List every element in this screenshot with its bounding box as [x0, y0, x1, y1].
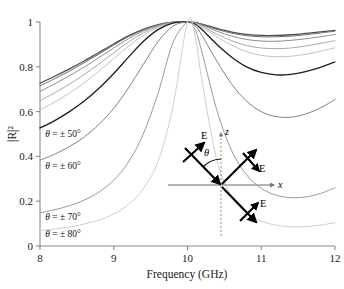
- x-axis-title: Frequency (GHz): [147, 268, 228, 281]
- polarization-geometry-inset: z x E θ E E: [168, 126, 283, 236]
- label-theta-50: θ = ± 50°: [45, 129, 81, 139]
- reflected-ray-arrow: [222, 150, 256, 184]
- y-tick-label: 1: [28, 16, 34, 28]
- y-axis-title: |R|²: [6, 126, 19, 142]
- y-tick-label: 0.6: [19, 106, 33, 118]
- theta-angle-label: θ: [204, 147, 209, 158]
- y-tick-label: 0.4: [19, 150, 33, 162]
- plot-area: 00.20.40.60.81 89101112 θ = ± 50°θ = ± 6…: [19, 16, 340, 264]
- transmitted-ray-arrow: [222, 187, 256, 222]
- y-axis-ticks: [36, 22, 40, 246]
- incident-e-label: E: [201, 130, 207, 141]
- label-theta-60: θ = ± 60°: [45, 161, 81, 171]
- x-tick-label: 8: [37, 252, 43, 264]
- chart-canvas: 00.20.40.60.81 89101112 θ = ± 50°θ = ± 6…: [0, 0, 344, 289]
- x-axis-ticks: [40, 246, 335, 250]
- data-curve: [40, 22, 335, 160]
- data-curves: [40, 17, 335, 230]
- y-tick-label: 0.8: [19, 61, 33, 73]
- label-theta-70: θ = ± 70°: [45, 212, 81, 222]
- label-theta-80: θ = ± 80°: [45, 229, 81, 239]
- incident-e-vector-arrow: [183, 143, 204, 162]
- y-axis-tick-labels: 00.20.40.60.81: [19, 16, 33, 252]
- transmitted-e-label: E: [260, 198, 266, 209]
- data-curve: [40, 17, 335, 230]
- x-tick-label: 11: [256, 252, 267, 264]
- x-axis-tick-labels: 89101112: [37, 252, 340, 264]
- x-tick-label: 10: [182, 252, 194, 264]
- x-tick-label: 9: [111, 252, 117, 264]
- data-curve: [40, 22, 335, 86]
- curve-annotations: θ = ± 50°θ = ± 60°θ = ± 70°θ = ± 80°: [45, 129, 81, 239]
- figure-container: 00.20.40.60.81 89101112 θ = ± 50°θ = ± 6…: [0, 0, 344, 289]
- reflected-e-label: E: [259, 163, 265, 174]
- y-tick-label: 0.2: [19, 195, 33, 207]
- y-tick-label: 0: [28, 240, 34, 252]
- inset-x-axis-label: x: [277, 179, 283, 190]
- inset-z-axis-label: z: [224, 126, 229, 137]
- x-tick-label: 12: [330, 252, 341, 264]
